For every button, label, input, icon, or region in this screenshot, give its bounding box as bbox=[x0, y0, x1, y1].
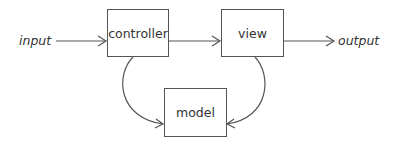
view-node: view bbox=[221, 9, 284, 57]
model-label: model bbox=[176, 105, 215, 120]
model-node: model bbox=[164, 88, 227, 137]
output-label: output bbox=[338, 33, 379, 48]
view-label: view bbox=[238, 26, 267, 41]
controller-node: controller bbox=[107, 9, 169, 57]
input-label: input bbox=[19, 33, 51, 48]
mvc-diagram: input output controller view model bbox=[0, 0, 394, 152]
edge-controller-model bbox=[123, 57, 163, 124]
edge-view-model bbox=[227, 57, 265, 124]
controller-label: controller bbox=[108, 26, 168, 41]
